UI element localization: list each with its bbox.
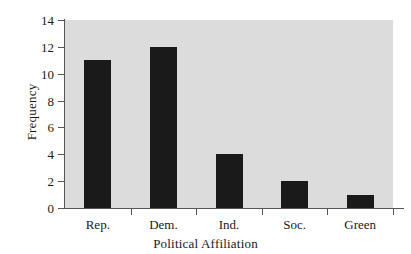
y-axis-tick-label: 2	[2, 175, 54, 188]
x-axis-tick	[327, 209, 328, 215]
y-axis-tick-label: 6	[2, 121, 54, 134]
x-axis-tick-label: Green	[325, 217, 395, 233]
y-axis-tick-label: 12	[2, 40, 54, 53]
x-axis-tick-label: Rep.	[63, 217, 133, 233]
y-axis-tick	[58, 74, 64, 75]
y-axis-tick-label: 10	[2, 67, 54, 80]
y-axis-tick	[58, 181, 64, 182]
bar-chart: Frequency 02468101214 Political Affiliat…	[0, 0, 411, 254]
y-axis-tick-label: 8	[2, 94, 54, 107]
bar	[84, 60, 111, 208]
x-axis-tick	[196, 209, 197, 215]
x-axis-tick	[131, 209, 132, 215]
x-axis-line	[64, 208, 404, 209]
y-axis-tick	[58, 127, 64, 128]
x-axis-title: Political Affiliation	[0, 236, 411, 252]
y-axis-line	[64, 19, 65, 209]
y-axis-tick	[58, 101, 64, 102]
y-axis-tick-label: 14	[2, 14, 54, 27]
y-axis-tick-label: 4	[2, 148, 54, 161]
y-axis-tick	[58, 47, 64, 48]
y-axis-tick	[58, 20, 64, 21]
x-axis-tick-label: Ind.	[194, 217, 264, 233]
y-axis-tick	[58, 154, 64, 155]
x-axis-tick-label: Soc.	[260, 217, 330, 233]
bar	[347, 195, 374, 208]
x-axis-tick	[262, 209, 263, 215]
bar	[216, 154, 243, 208]
bar	[281, 181, 308, 208]
x-axis-tick	[393, 209, 394, 215]
y-axis-tick-labels: 02468101214	[0, 0, 54, 254]
y-axis-tick-label: 0	[2, 202, 54, 215]
x-axis-tick-label: Dem.	[128, 217, 198, 233]
bar	[150, 47, 177, 208]
y-axis-tick	[58, 208, 64, 209]
